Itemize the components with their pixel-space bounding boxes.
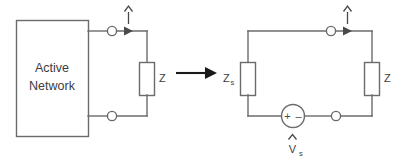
circuit-diagram-canvas: Active Network Z	[0, 0, 404, 164]
source-impedance-label: Z	[223, 72, 230, 84]
left-top-terminal	[107, 26, 116, 35]
active-network-label-line1: Active	[35, 61, 69, 75]
transform-arrow-head	[205, 67, 217, 79]
right-current-hat-icon	[344, 6, 352, 12]
source-impedance-box	[241, 63, 256, 96]
source-voltage-subscript: s	[299, 149, 303, 158]
right-bottom-terminal	[331, 111, 340, 120]
left-load-impedance-label: Z	[159, 72, 166, 84]
right-top-terminal	[326, 26, 335, 35]
source-voltage-label: V	[289, 143, 297, 155]
left-current-hat-icon	[125, 6, 133, 12]
thevenin-equivalent-circuit: + – V s Z s Z	[223, 6, 391, 158]
source-minus-sign: –	[295, 110, 302, 122]
source-hat-icon	[289, 135, 297, 140]
right-load-impedance-label: Z	[384, 72, 391, 84]
right-load-impedance-box	[365, 63, 380, 96]
left-current-arrowhead	[124, 27, 133, 36]
circuit-diagram-figure: Active Network Z	[0, 0, 404, 164]
right-current-arrowhead	[343, 27, 352, 36]
transform-arrow	[176, 67, 217, 79]
source-impedance-subscript: s	[231, 78, 235, 87]
active-network-circuit: Active Network Z	[17, 6, 167, 137]
active-network-label-line2: Network	[29, 79, 76, 93]
left-bottom-terminal	[107, 111, 116, 120]
source-plus-sign: +	[284, 110, 290, 122]
left-load-impedance-box	[140, 63, 155, 96]
